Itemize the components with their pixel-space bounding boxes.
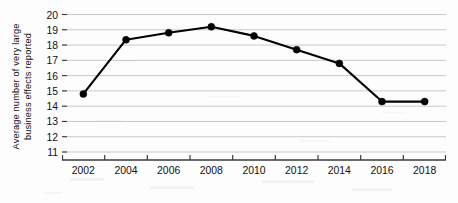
y-axis-tick-marks [62, 15, 67, 153]
x-axis-tick-label: 2010 [242, 165, 265, 176]
x-axis-tick-label: 2018 [413, 165, 436, 176]
x-axis-tick-label: 2012 [285, 165, 308, 176]
y-axis-tick-label: 14 [36, 101, 58, 112]
y-axis-tick-label: 19 [36, 24, 58, 35]
x-axis-tick-label: 2016 [370, 165, 393, 176]
data-point-markers [80, 23, 428, 105]
x-axis-tick-label: 2008 [200, 165, 223, 176]
y-axis-tick-label: 17 [36, 55, 58, 66]
y-axis-tick-labels: 11121314151617181920 [36, 0, 58, 172]
y-axis-tick-label: 16 [36, 70, 58, 81]
y-axis-title-line-1: Average number of very large [11, 23, 23, 149]
x-axis-tick-label: 2006 [157, 165, 180, 176]
y-axis-tick-label: 13 [36, 116, 58, 127]
x-axis-tick-label: 2002 [72, 165, 95, 176]
y-axis-tick-label: 11 [36, 147, 58, 158]
line-chart-svg [62, 0, 446, 161]
y-axis-tick-label: 20 [36, 9, 58, 20]
y-axis-title-line-2: business effects reported [22, 23, 34, 149]
y-axis-tick-label: 12 [36, 131, 58, 142]
y-axis-tick-label: 15 [36, 85, 58, 96]
y-axis-tick-label: 18 [36, 40, 58, 51]
x-axis-tick-labels: 200220042006200820102012201420162018 [62, 163, 446, 185]
x-axis-tick-label: 2004 [114, 165, 137, 176]
chart-figure: Average number of very large business ef… [0, 0, 458, 203]
plot-area [62, 0, 446, 161]
x-axis-tick-marks [63, 155, 446, 160]
x-axis-tick-label: 2014 [328, 165, 351, 176]
